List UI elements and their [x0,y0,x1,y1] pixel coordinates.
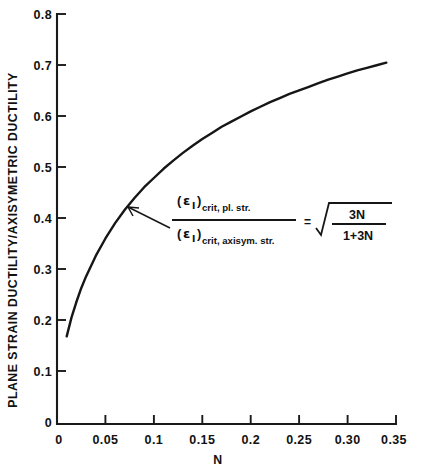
equals-sign: = [304,215,311,229]
y-axis-title: PLANE STRAIN DUCTILITY/AXISYMETRIC DUCTI… [6,72,20,408]
x-tick-labels: 0 0.05 0.1 0.15 0.2 0.25 0.30 0.35 [55,433,407,447]
y-tick-labels: 0.8 0.7 0.6 0.5 0.4 0.3 0.2 0.1 0 [33,8,52,430]
chart-svg: PLANE STRAIN DUCTILITY/AXISYMETRIC DUCTI… [0,0,421,469]
x-tick-label: 0.30 [335,433,361,447]
denominator-subscript: crit, axisym. str. [202,235,275,246]
y-tick-label: 0.6 [33,110,52,124]
y-tick-label: 0.4 [33,212,52,226]
annotation-arrow [128,207,170,228]
x-tick-label: 0.25 [286,433,312,447]
numerator-paren-close: ) [197,193,201,208]
y-tick-label: 0 [45,416,52,430]
y-tick-label: 0.2 [33,314,52,328]
y-tick-label: 0.3 [33,263,52,277]
x-tick-label: 0.15 [189,433,215,447]
y-tick-label: 0.7 [33,59,52,73]
epsilon-symbol-numerator: ε [183,193,190,208]
y-tick-label: 0.8 [33,8,52,22]
radical-denominator: 1+3N [343,229,373,243]
x-tick-label: 0 [55,433,62,447]
numerator-subscript: crit, pl. str. [202,202,251,213]
denominator-roman-subscript: I [192,234,195,244]
epsilon-symbol-denominator: ε [183,226,190,241]
radical-numerator: 3N [349,208,365,222]
x-tick-label: 0.1 [145,433,164,447]
figure-container: PLANE STRAIN DUCTILITY/AXISYMETRIC DUCTI… [0,0,421,469]
numerator-roman-subscript: I [192,201,195,211]
y-ticks [57,14,66,371]
x-axis-title: N [213,453,222,467]
denominator-paren-open: ( [177,226,182,241]
y-tick-label: 0.5 [33,161,52,175]
denominator-paren-close: ) [197,226,201,241]
numerator-paren-open: ( [177,193,182,208]
x-tick-label: 0.35 [381,433,407,447]
y-tick-label: 0.1 [33,365,52,379]
formula-annotation: ( ε I ) crit, pl. str. ( ε I ) crit, axi… [172,193,392,246]
x-ticks [105,415,396,424]
x-tick-label: 0.2 [241,433,260,447]
data-curve [67,63,387,337]
x-tick-label: 0.05 [92,433,118,447]
